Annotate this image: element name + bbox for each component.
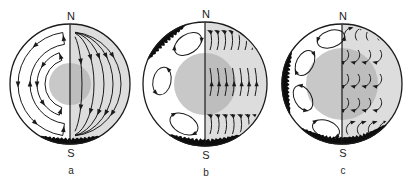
panel-c: NSc [281, 10, 402, 176]
pole-label-north: N [339, 10, 347, 22]
pole-label-south: S [339, 147, 346, 159]
right-hemisphere-shade [342, 24, 402, 143]
pole-label-south: S [67, 147, 74, 159]
panel-letter: b [203, 167, 209, 178]
pole-label-north: N [202, 8, 210, 20]
pole-label-north: N [67, 10, 75, 22]
panel-letter: a [68, 165, 74, 176]
pole-label-south: S [202, 149, 209, 161]
panel-b: NSb [143, 8, 267, 178]
dark-rim-band [147, 24, 185, 59]
figure-stage: NSaNSbNSc [0, 0, 409, 189]
panel-letter: c [341, 165, 346, 176]
star-dynamo-diagram: NSaNSbNSc [0, 0, 409, 189]
panel-a: NSa [10, 10, 130, 176]
